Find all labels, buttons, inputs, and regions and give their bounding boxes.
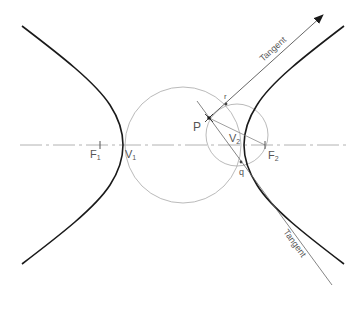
label-r: r: [224, 92, 227, 101]
label-v2: V2: [229, 132, 240, 145]
lower-tangent-line: [197, 101, 332, 285]
label-p: P: [193, 120, 201, 134]
point-q-marker: [240, 161, 243, 164]
label-f2: F2: [268, 149, 279, 162]
small-circle: [206, 104, 268, 166]
diagram-canvas: F1 V1 V2 F2 P r q Tangent Tangent: [0, 0, 364, 310]
label-tangent-upper: Tangent: [258, 34, 289, 63]
point-r-marker: [225, 103, 228, 106]
label-f1: F1: [90, 148, 101, 161]
hyperbola-diagram: F1 V1 V2 F2 P r q Tangent Tangent: [0, 0, 364, 310]
upper-tangent-line: [209, 15, 323, 118]
label-v1: V1: [125, 148, 136, 161]
label-q: q: [239, 167, 244, 177]
